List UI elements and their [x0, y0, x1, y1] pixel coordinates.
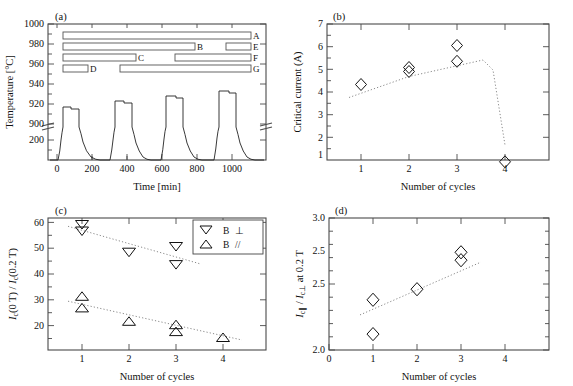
- svg-text:940: 940: [29, 78, 44, 89]
- svg-text:2.5: 2.5: [313, 278, 326, 289]
- bar-label-B: B: [197, 42, 203, 52]
- panel-c-ylabel: Ic(0 T) / Ic(0.2 T): [7, 248, 20, 321]
- svg-text:3: 3: [174, 353, 179, 364]
- panel-a-svg: (a): [0, 0, 290, 196]
- panel-a-tag: (a): [55, 11, 67, 23]
- bar-label-A: A: [253, 31, 260, 41]
- svg-text:4: 4: [221, 353, 226, 364]
- svg-text:920: 920: [29, 98, 44, 109]
- panel-c-ytick-labels: 60 50 40 30 20: [34, 217, 44, 331]
- svg-text:800: 800: [190, 163, 205, 174]
- sample-bar-E: [226, 43, 251, 50]
- svg-text:60: 60: [34, 217, 44, 228]
- bar-label-C: C: [138, 53, 144, 63]
- svg-text:2: 2: [407, 163, 412, 174]
- data-point-diamond: [367, 293, 379, 306]
- data-point-triangle-down: [170, 261, 183, 270]
- panel-d-ytick-labels: 3.0 2.5 2.0: [313, 212, 326, 355]
- panel-a: (a): [0, 0, 290, 196]
- sample-bar-B: [63, 43, 195, 50]
- panel-b-frame: [327, 24, 549, 160]
- panel-d-xticks: [329, 218, 505, 350]
- svg-text:3.0: 3.0: [313, 212, 326, 223]
- data-point-diamond: [356, 79, 367, 91]
- svg-text:200: 200: [85, 163, 100, 174]
- svg-text:30: 30: [34, 294, 44, 305]
- figure-root: (a): [0, 0, 573, 386]
- panel-b-xlabel: Number of cycles: [401, 181, 476, 192]
- data-point-diamond: [452, 40, 463, 52]
- svg-text:1: 1: [359, 163, 364, 174]
- panel-c-tag: (c): [55, 205, 67, 217]
- panel-b-svg: (b): [287, 0, 573, 196]
- panel-d-frame: [329, 218, 549, 350]
- panel-d-tag: (d): [335, 205, 348, 217]
- data-point-triangle-up: [217, 333, 230, 342]
- panel-b-ytick-labels: 7 6 5 4 3 2 1: [318, 18, 323, 160]
- panel-a-xlabel: Time [min]: [133, 181, 181, 192]
- svg-text:2: 2: [318, 132, 323, 143]
- panel-d-xtick-labels: 0 1 2 3 4: [327, 353, 508, 364]
- panel-d-svg: (d): [287, 192, 573, 386]
- svg-text:2: 2: [127, 353, 132, 364]
- panel-b-tag: (b): [333, 11, 346, 23]
- svg-text:Ic(0 T) / Ic(0.2 T): Ic(0 T) / Ic(0.2 T): [7, 248, 20, 321]
- sample-bar-D: [63, 65, 88, 72]
- data-point-triangle-up: [76, 303, 89, 312]
- panel-c-series-par: [76, 292, 230, 342]
- svg-text:400: 400: [120, 163, 135, 174]
- sample-bar-F: [175, 54, 251, 61]
- svg-text:960: 960: [29, 58, 44, 69]
- svg-text:40: 40: [34, 268, 44, 279]
- data-point-diamond: [455, 254, 467, 267]
- svg-text:3: 3: [455, 163, 460, 174]
- panel-c-legend: B ⊥ B //: [193, 220, 263, 254]
- bar-label-G: G: [253, 64, 260, 74]
- svg-text:1: 1: [371, 353, 376, 364]
- svg-text:6: 6: [318, 41, 323, 52]
- sample-bar-C: [63, 54, 136, 61]
- svg-text:2.5: 2.5: [313, 245, 326, 256]
- panel-b-ylabel: Critical current (A): [292, 51, 304, 133]
- data-point-diamond: [404, 66, 415, 78]
- panel-c-svg: (c) 60 50 4: [0, 192, 290, 386]
- svg-text:5: 5: [318, 64, 323, 75]
- panel-a-ylabel: Temperature [°C]: [4, 55, 15, 129]
- svg-text:900: 900: [29, 118, 44, 129]
- svg-text:7: 7: [318, 18, 323, 29]
- legend-symbol-par: //: [235, 240, 241, 250]
- svg-text:1000: 1000: [222, 163, 242, 174]
- svg-text:980: 980: [29, 38, 44, 49]
- panel-a-temperature-curve: [50, 91, 264, 160]
- data-point-diamond: [367, 328, 379, 341]
- panel-b-trend-line: [349, 60, 505, 145]
- panel-c-trend-par: [68, 301, 242, 340]
- panel-d-data-points: [367, 246, 467, 341]
- panel-a-axis-break: [42, 123, 272, 130]
- svg-text:4: 4: [503, 353, 508, 364]
- legend-label-perp: B: [223, 226, 229, 236]
- data-point-diamond: [455, 246, 467, 259]
- data-point-triangle-down: [170, 243, 183, 252]
- panel-c-xlabel: Number of cycles: [120, 371, 195, 382]
- legend-label-par: B: [223, 240, 229, 250]
- svg-text:0: 0: [55, 163, 60, 174]
- data-point-diamond: [411, 283, 423, 296]
- panel-a-ytick-labels: 1000 980 960 940 920 900 200: [24, 18, 44, 145]
- panel-d-trend-line: [360, 262, 481, 315]
- svg-text:4: 4: [318, 86, 323, 97]
- panel-d-yticks: [329, 218, 549, 350]
- panel-c-series-perp: [76, 221, 183, 270]
- panel-b: (b): [287, 0, 573, 196]
- data-point-diamond: [404, 62, 415, 74]
- bar-label-D: D: [90, 64, 97, 74]
- panel-d: (d): [287, 192, 573, 386]
- svg-text:2: 2: [415, 353, 420, 364]
- data-point-triangle-up: [76, 292, 89, 301]
- svg-text:2.0: 2.0: [313, 344, 326, 355]
- panel-d-xlabel: Number of cycles: [402, 371, 477, 382]
- panel-d-ylabel: Ic∥ / Ic⊥ at 0.2 T: [294, 250, 307, 319]
- panel-c: (c) 60 50 4: [0, 192, 290, 386]
- panel-b-xticks: [361, 24, 505, 160]
- legend-symbol-perp: ⊥: [235, 226, 244, 236]
